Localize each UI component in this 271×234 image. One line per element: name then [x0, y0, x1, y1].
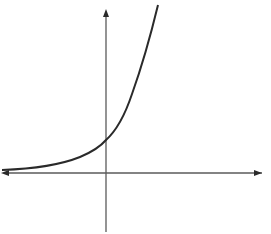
x-axis — [1, 170, 262, 176]
exponential-graph — [0, 0, 271, 234]
x-axis-right-arrow-icon — [254, 170, 262, 176]
exponential-curve — [2, 5, 158, 170]
graph-canvas — [0, 0, 271, 234]
y-axis-up-arrow-icon — [103, 9, 109, 17]
y-axis — [103, 9, 109, 232]
